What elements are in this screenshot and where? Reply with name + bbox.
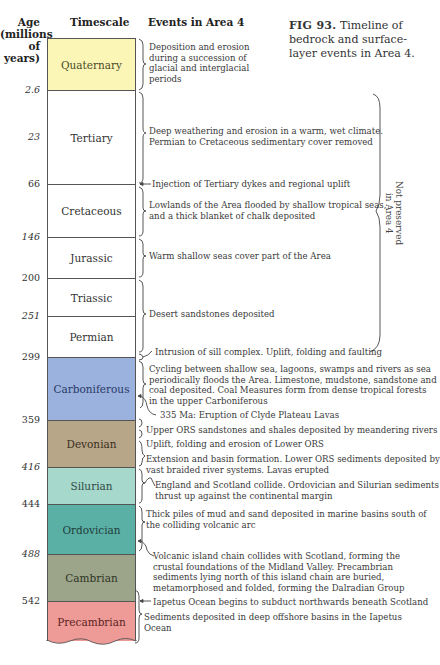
event-line: periods (149, 74, 250, 85)
event-line: Deposition and erosion (149, 42, 250, 53)
event-line: Deep weathering and erosion in a warm, w… (149, 126, 383, 137)
not-preserved-line1: Not preserved (394, 168, 404, 258)
brace-icon (139, 239, 146, 277)
wavy-bottom (47, 639, 136, 645)
event-line: Intrusion of sill complex. Uplift, foldi… (155, 347, 382, 358)
event-line: Cycling between shallow sea, lagoons, sw… (149, 364, 437, 375)
event-volcanic-island-collision: Volcanic island chain collides with Scot… (153, 551, 404, 593)
event-quaternary: Deposition and erosion during a successi… (149, 42, 250, 84)
event-line: Ocean (144, 623, 402, 634)
event-iapetus-subduction: Iapetus Ocean begins to subduct northwar… (153, 597, 428, 608)
not-preserved-line2: in Area 4 (384, 168, 394, 258)
event-tertiary-dykes: Injection of Tertiary dykes and regional… (152, 179, 350, 190)
event-line: Upper ORS sandstones and shales deposite… (146, 425, 437, 436)
event-line: metamorphosed and folded, forming the Da… (153, 583, 404, 594)
event-line: and a thick blanket of chalk deposited (149, 211, 386, 222)
event-lower-ors-uplift: Uplift, folding and erosion of Lower ORS (146, 439, 324, 450)
event-line: Volcanic island chain collides with Scot… (153, 551, 404, 562)
brace-icon (139, 39, 146, 90)
event-jurassic: Warm shallow seas cover part of the Area (149, 251, 331, 262)
event-line: Sediments deposited in deep offshore bas… (144, 612, 402, 623)
event-line: Desert sandstones deposited (149, 309, 275, 320)
event-line: Permian to Cretaceous sedimentary cover … (149, 137, 383, 148)
event-line: Extension and basin formation. Lower ORS… (146, 454, 440, 465)
event-line: during a succession of (149, 53, 250, 64)
event-tertiary-weathering: Deep weathering and erosion in a warm, w… (149, 126, 383, 147)
event-line: England and Scotland collide. Ordovician… (155, 480, 439, 491)
event-line: the colliding volcanic arc (146, 520, 427, 531)
event-silurian-collision: England and Scotland collide. Ordovician… (155, 480, 439, 501)
brace-icon (139, 419, 142, 427)
event-line: in the upper Carboniferous (149, 396, 437, 407)
event-upper-ors: Upper ORS sandstones and shales deposite… (146, 425, 437, 436)
event-line: 335 Ma: Eruption of Clyde Plateau Lavas (160, 410, 339, 421)
event-carboniferous: Cycling between shallow sea, lagoons, sw… (149, 364, 437, 406)
brace-icon (139, 354, 143, 360)
event-line: Uplift, folding and erosion of Lower ORS (146, 439, 324, 450)
event-triassic-permian: Desert sandstones deposited (149, 309, 275, 320)
event-line: glacial and interglacial (149, 63, 250, 74)
event-sill-intrusion: Intrusion of sill complex. Uplift, foldi… (155, 347, 382, 358)
event-line: Injection of Tertiary dykes and regional… (152, 179, 350, 190)
not-preserved-note: Not preserved in Area 4 (384, 168, 404, 258)
event-cretaceous: Lowlands of the Area flooded by shallow … (149, 200, 386, 221)
event-line: Lowlands of the Area flooded by shallow … (149, 200, 386, 211)
event-line: periodically floods the Area. Limestone,… (149, 375, 437, 386)
event-lower-ors-extension: Extension and basin formation. Lower ORS… (146, 454, 440, 475)
event-line: Iapetus Ocean begins to subduct northwar… (153, 597, 428, 608)
brace-icon (139, 361, 146, 408)
event-line: thrust up against the continental margin (155, 491, 439, 502)
brace-icon (139, 506, 145, 551)
event-line: sediments lying north of this island cha… (153, 572, 404, 583)
event-line: coal deposited. Coal Measures form from … (149, 385, 437, 396)
event-line: Thick piles of mud and sand deposited in… (146, 509, 427, 520)
event-clyde-lavas: 335 Ma: Eruption of Clyde Plateau Lavas (160, 410, 339, 421)
brace-icon (135, 590, 142, 643)
brace-icon (139, 187, 146, 236)
event-precambrian: Sediments deposited in deep offshore bas… (144, 612, 402, 633)
brace-icon (139, 469, 145, 503)
brace-icon (139, 92, 146, 183)
event-line: crustal foundations of the Midland Valle… (153, 562, 404, 573)
brace-icon (139, 280, 146, 352)
event-ordovician: Thick piles of mud and sand deposited in… (146, 509, 427, 530)
event-line: Warm shallow seas cover part of the Area (149, 251, 331, 262)
event-line: vast braided river systems. Lavas erupte… (146, 465, 440, 476)
brace-icon (139, 430, 142, 438)
brace-icon (139, 441, 145, 466)
